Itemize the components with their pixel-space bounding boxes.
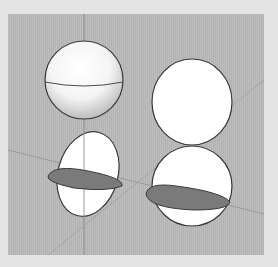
scene-canvas[interactable] (8, 14, 264, 255)
shaded-sphere[interactable] (45, 41, 123, 119)
split-sphere-right[interactable] (146, 146, 232, 226)
split-sphere-left[interactable] (48, 125, 128, 224)
flat-circle[interactable] (152, 59, 232, 145)
3d-viewport[interactable] (8, 14, 264, 255)
axis-lines (8, 14, 264, 255)
